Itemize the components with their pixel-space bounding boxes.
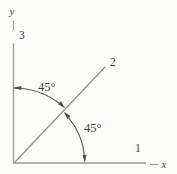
y-axis-letter: y (9, 5, 15, 17)
rotated-axes-figure: y 3 1 x 2 45° 45° (0, 0, 177, 174)
axis-2-number: 2 (110, 56, 116, 68)
axis-3-number: 3 (19, 29, 25, 41)
figure-canvas: y 3 1 x 2 45° 45° (0, 0, 177, 174)
lower-angle-label: 45° (84, 121, 102, 135)
lower-arc-bottom-arrowhead-icon (82, 155, 86, 163)
x-axis-letter: x (161, 158, 167, 170)
lower-angle-arc (68, 117, 84, 157)
axis-2-diagonal-line (15, 67, 106, 163)
upper-angle-label: 45° (38, 80, 56, 94)
axis-1-number: 1 (135, 142, 141, 154)
lower-arc-top-arrowhead-icon (64, 112, 71, 119)
upper-arc-left-arrowhead-icon (13, 86, 21, 90)
upper-arc-right-arrowhead-icon (58, 101, 65, 108)
